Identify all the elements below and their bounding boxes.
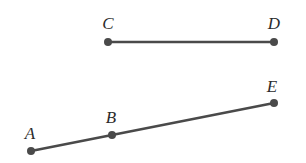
point-e [270,99,278,107]
point-d [270,38,278,46]
segment-ae [31,103,274,151]
label-b: B [106,109,116,126]
label-d: D [268,15,280,32]
label-e: E [267,78,277,95]
diagram-svg [0,0,306,163]
point-a [27,147,35,155]
label-c: C [102,15,113,32]
label-a: A [25,125,35,142]
point-b [108,131,116,139]
diagram-canvas: A B C D E [0,0,306,163]
point-c [104,38,112,46]
